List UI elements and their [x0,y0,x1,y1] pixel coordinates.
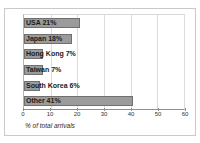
x-tick-mark [185,108,186,111]
bar-row: USA 21% [24,18,184,28]
bar-value-label: USA 21% [26,18,56,28]
figure-page: USA 21%Japan 18%Hong Kong 7%Taiwan 7%Sou… [0,0,200,143]
chart-area: USA 21%Japan 18%Hong Kong 7%Taiwan 7%Sou… [15,14,189,114]
x-tick-label: 40 [128,111,135,117]
bar-row: Taiwan 7% [24,65,184,75]
bar-value-label: Taiwan 7% [26,65,61,75]
gridline [184,15,185,109]
bar-row: Hong Kong 7% [24,49,184,59]
x-tick-mark [23,108,24,111]
plot-area: USA 21%Japan 18%Hong Kong 7%Taiwan 7%Sou… [23,14,185,110]
bar-value-label: Japan 18% [26,34,62,44]
x-axis-title: % of total arrivals [25,122,75,129]
x-tick-mark [104,108,105,111]
x-tick-label: 30 [101,111,108,117]
bar-row: South Korea 6% [24,81,184,91]
top-caption [6,0,126,7]
x-tick-mark [131,108,132,111]
x-tick-label: 20 [74,111,81,117]
x-tick-label: 0 [21,111,24,117]
bar-value-label: Hong Kong 7% [26,49,76,59]
x-tick-mark [158,108,159,111]
bar-value-label: Other 41% [26,96,61,106]
x-tick-mark [77,108,78,111]
bar-row: Japan 18% [24,34,184,44]
bar-value-label: South Korea 6% [26,81,80,91]
bottom-caption [10,136,150,142]
x-axis-tick-labels: 0102030405060 [23,111,185,121]
bar-series: USA 21%Japan 18%Hong Kong 7%Taiwan 7%Sou… [24,15,184,109]
x-tick-label: 50 [155,111,162,117]
x-tick-label: 10 [47,111,54,117]
bar-row: Other 41% [24,96,184,106]
chart-figure-frame: USA 21%Japan 18%Hong Kong 7%Taiwan 7%Sou… [4,8,196,136]
x-tick-label: 60 [182,111,189,117]
x-tick-mark [50,108,51,111]
